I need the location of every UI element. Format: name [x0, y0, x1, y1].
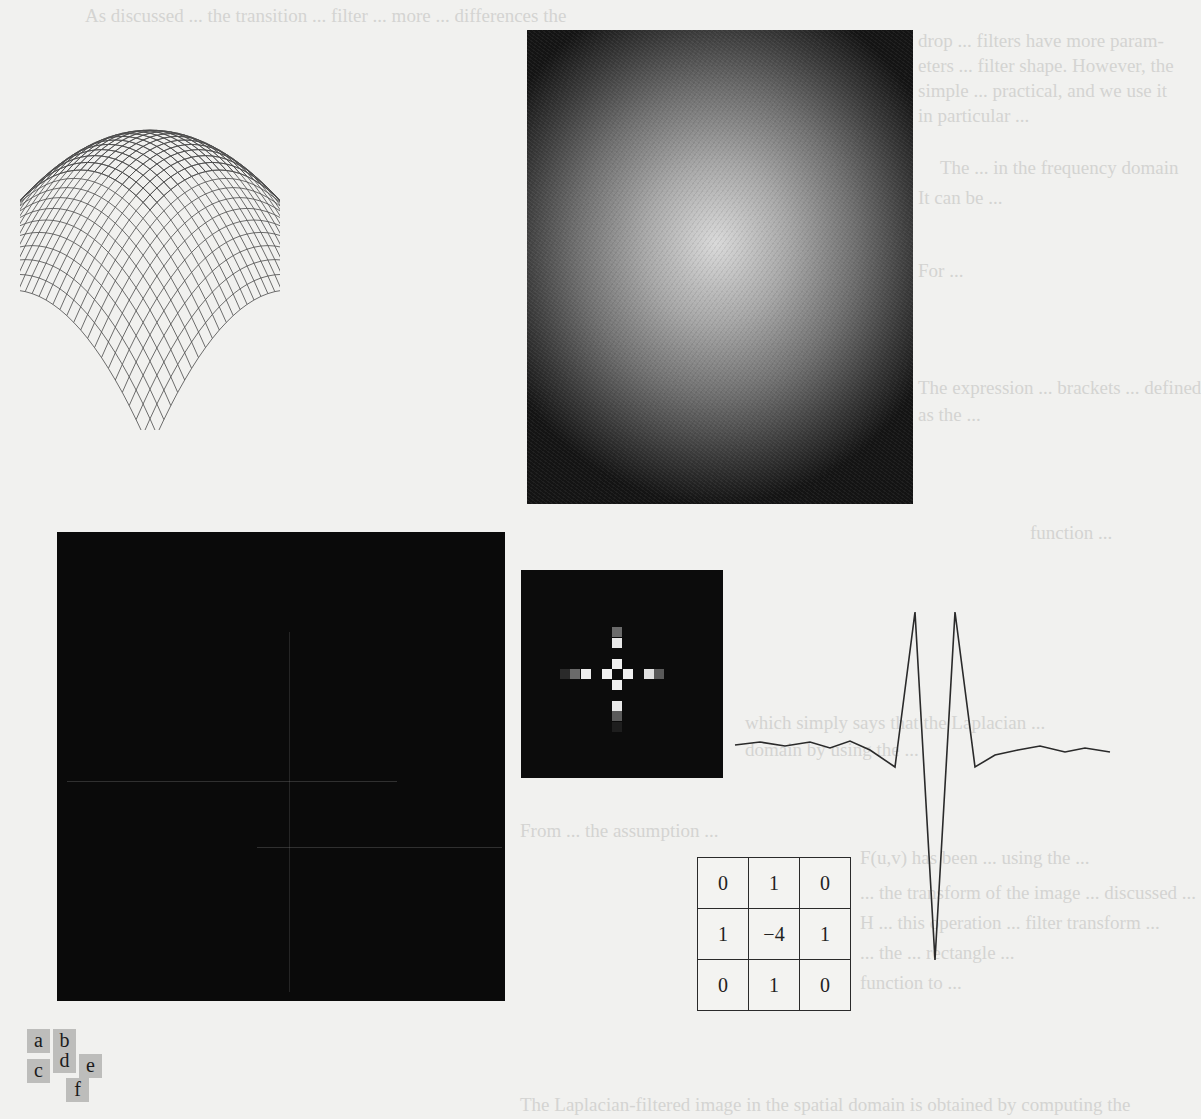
bleed-through-text: From ... the assumption ...	[520, 818, 718, 843]
mask-cell: 1	[749, 960, 800, 1011]
bleed-through-text: simple ... practical, and we use it	[918, 78, 1167, 103]
panel-label-e: e	[79, 1054, 102, 1078]
mask-cell: 0	[800, 960, 851, 1011]
faint-horizontal-line	[257, 847, 502, 848]
bleed-through-text: As discussed ... the transition ... filt…	[85, 3, 566, 28]
mesh-grid-path	[20, 130, 280, 430]
mask-cell: 0	[698, 858, 749, 909]
filter-pixel	[560, 669, 570, 679]
panel-label-d: d	[53, 1049, 76, 1073]
panel-label-f: f	[66, 1078, 89, 1102]
bleed-through-text: It can be ...	[918, 185, 1002, 210]
filter-pixel	[612, 722, 622, 732]
filter-intensity-image	[527, 30, 913, 504]
filter-pixel	[612, 638, 622, 648]
mask-cell: 1	[749, 858, 800, 909]
mask-cell: 1	[800, 909, 851, 960]
bleed-through-text: The ... in the frequency domain	[940, 155, 1178, 180]
mask-row: 0 1 0	[698, 960, 851, 1011]
filter-pixel	[612, 680, 622, 690]
bleed-through-text: For ...	[918, 258, 963, 283]
laplacian-mask-table: 0 1 0 1 −4 1 0 1 0	[697, 857, 851, 1011]
filter-pixel	[654, 669, 664, 679]
zoomed-center-image	[521, 570, 723, 778]
panel-label-a: a	[27, 1029, 50, 1053]
filter-pixel	[612, 659, 622, 669]
bleed-through-text: as the ...	[918, 402, 981, 427]
filter-pixel	[644, 669, 654, 679]
filter-pixel	[612, 711, 622, 721]
faint-horizontal-line	[67, 781, 397, 782]
spatial-filter-image	[57, 532, 505, 1001]
mask-cell: 1	[698, 909, 749, 960]
filter-pixel	[623, 669, 633, 679]
bleed-through-text: drop ... filters have more param-	[918, 28, 1164, 53]
faint-vertical-line	[289, 632, 290, 992]
bleed-through-text: The Laplacian-filtered image in the spat…	[520, 1092, 1130, 1117]
filter-pixel	[570, 669, 580, 679]
mesh-wireframe	[20, 130, 280, 430]
mask-row: 0 1 0	[698, 858, 851, 909]
bleed-through-text: The expression ... brackets ... defined	[918, 375, 1201, 400]
filter-pixel	[612, 701, 622, 711]
bleed-through-text: function ...	[1030, 520, 1112, 545]
mesh-surface-plot	[20, 90, 280, 430]
mask-cell: −4	[749, 909, 800, 960]
mask-cell: 0	[698, 960, 749, 1011]
panel-label-c: c	[27, 1059, 50, 1083]
panel-label-legend: a b c d e f	[27, 1029, 117, 1109]
bleed-through-text: eters ... filter shape. However, the	[918, 53, 1174, 78]
mask-row: 1 −4 1	[698, 909, 851, 960]
mask-cell: 0	[800, 858, 851, 909]
filter-pixel	[581, 669, 591, 679]
filter-pixel	[612, 627, 622, 637]
filter-pixel	[602, 669, 612, 679]
bleed-through-text: in particular ...	[918, 103, 1029, 128]
